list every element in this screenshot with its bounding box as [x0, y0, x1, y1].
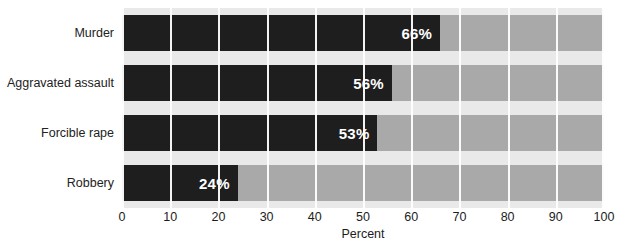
gridline [218, 8, 220, 208]
gridline [267, 8, 269, 208]
x-tick-label: 80 [501, 210, 515, 225]
x-tick-label: 60 [404, 210, 418, 225]
x-tick-label: 10 [163, 210, 177, 225]
category-label-murder: Murder [0, 26, 114, 40]
gridline [122, 8, 124, 208]
x-tick-label: 100 [594, 210, 615, 225]
x-tick-label: 40 [308, 210, 322, 225]
x-tick-label: 0 [119, 210, 126, 225]
category-label-robbery: Robbery [0, 176, 114, 190]
x-axis-title: Percent [122, 227, 604, 241]
bar-value-label: 56% [353, 75, 392, 92]
gridline [556, 8, 558, 208]
bar: 53% [122, 115, 377, 151]
x-tick-label: 30 [260, 210, 274, 225]
gridline [363, 8, 365, 208]
bar-value-label: 66% [401, 25, 440, 42]
category-label-forcible-rape: Forcible rape [0, 126, 114, 140]
gridline [170, 8, 172, 208]
gridline [508, 8, 510, 208]
x-tick-label: 70 [452, 210, 466, 225]
x-tick-label: 20 [211, 210, 225, 225]
bar-value-label: 53% [339, 125, 378, 142]
plot-area: 66%56%53%24% [122, 8, 604, 208]
x-tick-label: 50 [356, 210, 370, 225]
category-axis-labels: Murder Aggravated assault Forcible rape … [0, 8, 114, 208]
category-label-aggravated-assault: Aggravated assault [0, 76, 114, 90]
x-tick-label: 90 [549, 210, 563, 225]
gridline [411, 8, 413, 208]
gridline [602, 8, 604, 208]
bar: 56% [122, 65, 392, 101]
bar-chart: Murder Aggravated assault Forcible rape … [0, 0, 624, 248]
gridline [459, 8, 461, 208]
gridline [315, 8, 317, 208]
